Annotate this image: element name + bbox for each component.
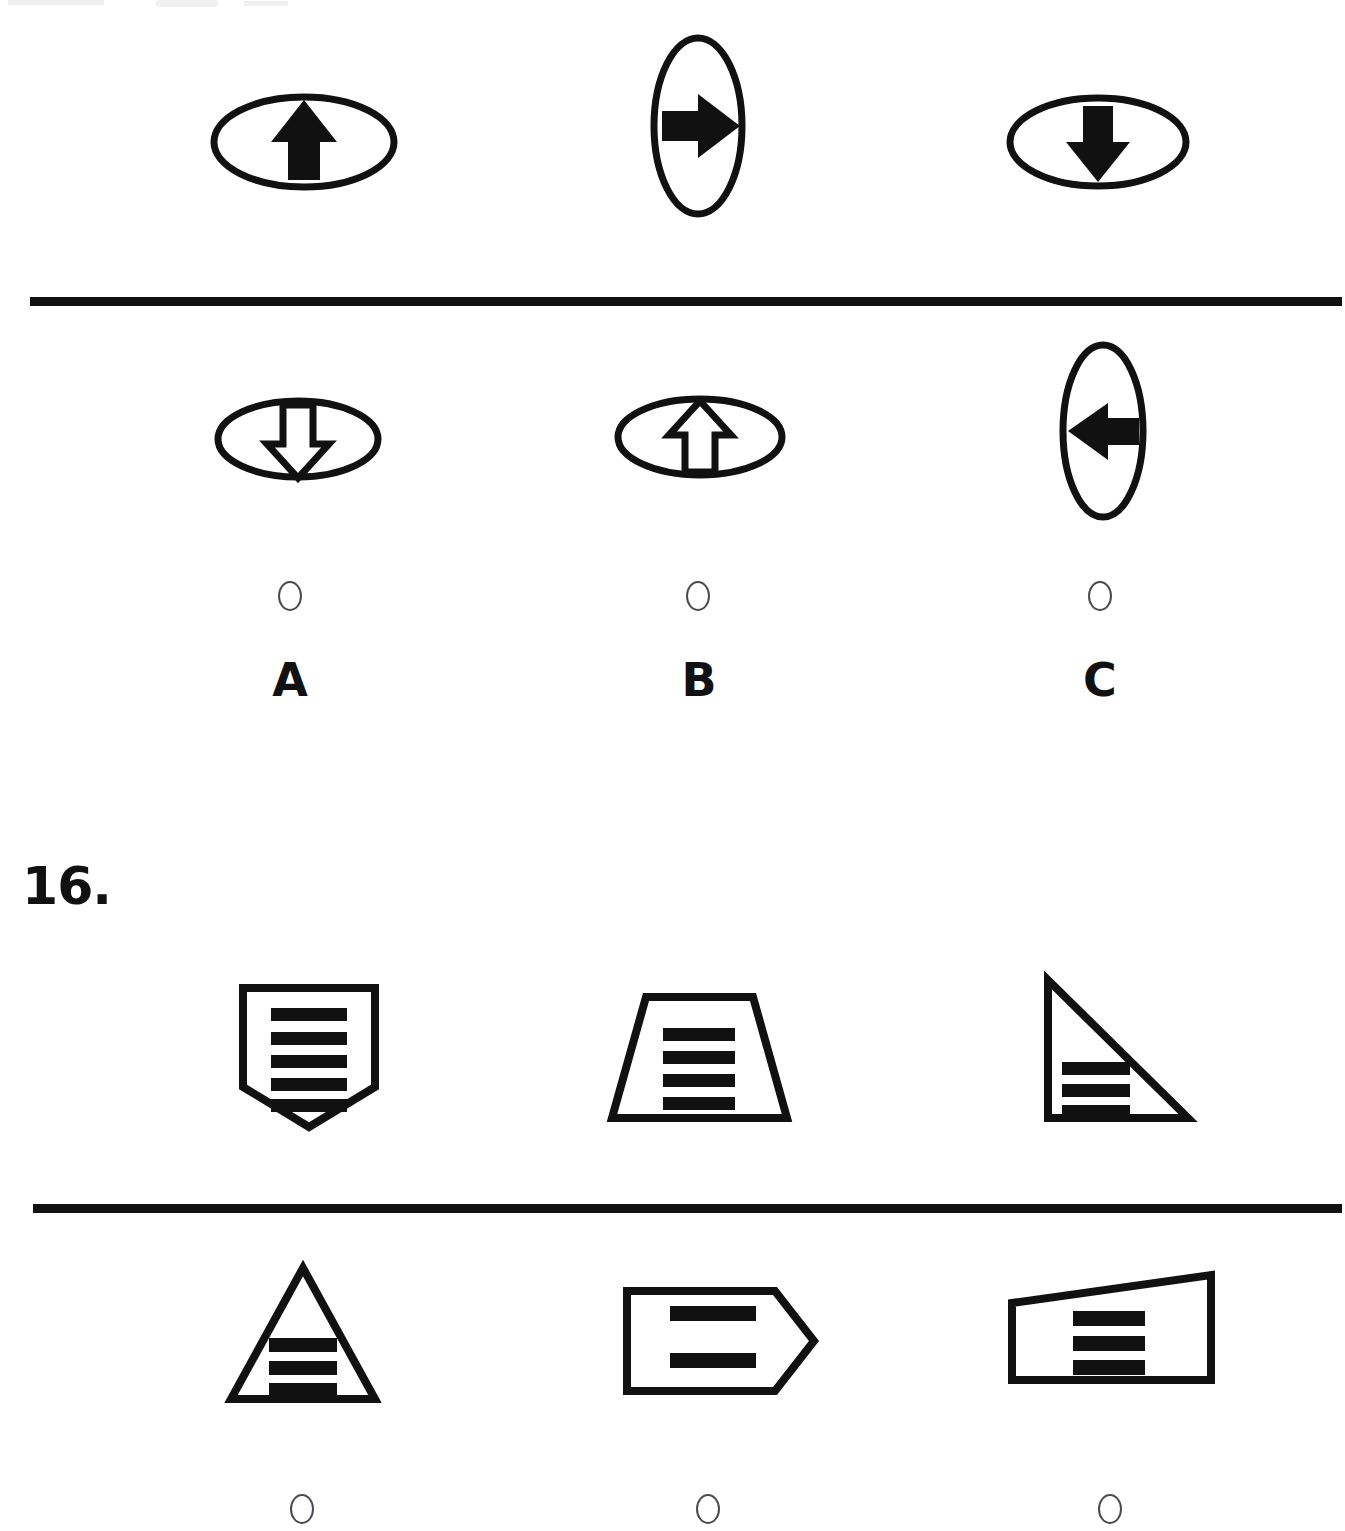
q15-prompt-2-figure <box>654 38 742 214</box>
worksheet-page: A B C 16. <box>0 0 1345 1531</box>
arrow-up-solid-icon <box>271 100 337 180</box>
q16-prompt-3-figure <box>1048 980 1188 1118</box>
triangle-outline <box>231 1268 375 1399</box>
right-triangle-outline <box>1048 980 1188 1118</box>
arrow-up-outline-icon <box>669 401 731 472</box>
q15-option-a-figure[interactable] <box>218 401 378 478</box>
figures-layer <box>0 0 1345 1531</box>
q15-prompt-3-figure <box>1010 98 1186 186</box>
q15-option-b-letter: B <box>659 657 739 703</box>
stripe-group <box>663 1028 735 1110</box>
q16-option-c-figure[interactable] <box>1012 1275 1211 1380</box>
divider-top <box>30 297 1342 306</box>
q16-option-b-radio[interactable] <box>696 1494 720 1524</box>
divider-bottom <box>33 1204 1342 1213</box>
q15-option-a-letter: A <box>250 657 330 703</box>
q15-option-b-radio[interactable] <box>686 581 710 611</box>
q15-option-b-figure[interactable] <box>618 399 782 475</box>
q16-option-b-figure[interactable] <box>627 1291 814 1391</box>
q16-option-c-radio[interactable] <box>1098 1494 1122 1524</box>
stripe-group <box>269 1338 337 1397</box>
q15-option-c-letter: C <box>1060 657 1140 703</box>
arrow-left-solid-icon <box>1068 403 1139 460</box>
stripe-group <box>271 1008 347 1112</box>
stripe-group <box>1073 1311 1145 1375</box>
q15-option-c-radio[interactable] <box>1088 581 1112 611</box>
q16-option-a-radio[interactable] <box>290 1494 314 1524</box>
q16-option-a-figure[interactable] <box>231 1268 375 1399</box>
arrow-right-solid-icon <box>662 94 740 158</box>
arrow-down-solid-icon <box>1066 106 1130 182</box>
q16-prompt-2-figure <box>612 997 787 1118</box>
stripe-group <box>1062 1062 1130 1118</box>
arrow-down-outline-icon <box>267 405 329 478</box>
q15-prompt-1-figure <box>214 97 394 187</box>
question-16-number: 16. <box>22 860 111 912</box>
stripe-group <box>670 1306 756 1368</box>
q16-prompt-1-figure <box>243 988 375 1127</box>
q15-option-a-radio[interactable] <box>278 581 302 611</box>
q15-option-c-figure[interactable] <box>1063 345 1143 517</box>
